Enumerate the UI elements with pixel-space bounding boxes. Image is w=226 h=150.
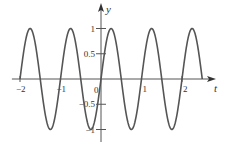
origin-label: 0	[94, 85, 99, 95]
y-tick-label: −0.5	[79, 99, 96, 109]
x-tick-label: −1	[57, 84, 67, 94]
y-tick-label: 1	[91, 24, 96, 34]
y-tick-label: 0.5	[84, 49, 96, 59]
x-tick-label: 1	[143, 84, 148, 94]
y-axis-label: y	[105, 3, 111, 15]
axes	[12, 3, 216, 142]
sine-plot: −2−112−1−0.50.51 t y 0	[0, 0, 226, 150]
x-tick-label: −2	[16, 84, 26, 94]
chart-container: −2−112−1−0.50.51 t y 0	[0, 0, 226, 150]
x-tick-label: 2	[183, 84, 188, 94]
x-axis-label: t	[214, 82, 218, 94]
